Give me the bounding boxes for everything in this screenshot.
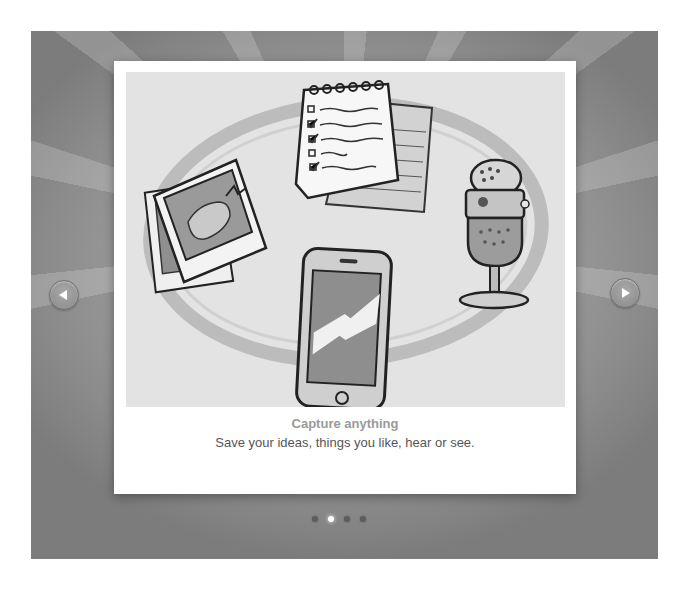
triangle-right-icon	[622, 288, 630, 298]
pagination-dots	[312, 516, 366, 524]
pagination-dot[interactable]	[360, 516, 366, 522]
slide-card: Capture anything Save your ideas, things…	[114, 61, 576, 494]
previous-slide-button[interactable]	[49, 280, 79, 310]
photo-stack-icon	[144, 160, 266, 293]
pagination-dot[interactable]	[328, 516, 334, 522]
pagination-dot[interactable]	[312, 516, 318, 522]
next-slide-button[interactable]	[610, 278, 640, 308]
triangle-left-icon	[59, 290, 67, 300]
notepad-icon	[296, 81, 432, 212]
pagination-dot[interactable]	[344, 516, 350, 522]
slide-title: Capture anything	[114, 416, 576, 431]
smartphone-icon	[296, 248, 392, 407]
slide-subtitle: Save your ideas, things you like, hear o…	[114, 435, 576, 450]
slide-illustration	[126, 72, 565, 407]
